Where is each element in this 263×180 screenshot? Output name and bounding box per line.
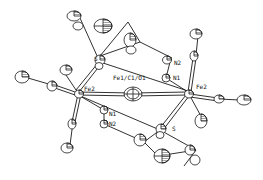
label-fe2-left: Fe2 bbox=[84, 86, 95, 92]
molecule-structure bbox=[0, 0, 263, 180]
label-n2-left: N2 bbox=[109, 121, 116, 127]
label-s-top: S bbox=[94, 56, 98, 62]
ortep-diagram: Fe1/C1/O1 Fe2 Fe2 S S N1 N2 N1 N2 bbox=[0, 0, 263, 180]
label-s-bottom: S bbox=[172, 126, 176, 132]
label-n1-left: N1 bbox=[109, 111, 116, 117]
label-n2-right: N2 bbox=[174, 60, 181, 66]
atoms bbox=[15, 11, 251, 165]
label-fe2-right: Fe2 bbox=[196, 84, 207, 90]
label-n1-right: N1 bbox=[173, 75, 180, 81]
label-fe1-c1-o1: Fe1/C1/O1 bbox=[113, 75, 146, 81]
